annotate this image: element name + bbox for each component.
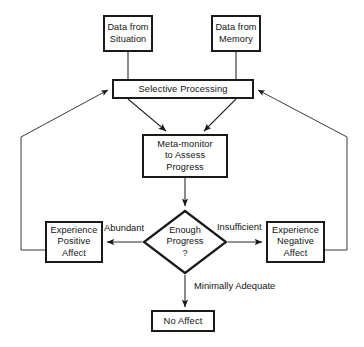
node-experience-negative-affect-line3: Affect: [284, 248, 308, 260]
node-selective-processing: Selective Processing: [112, 79, 254, 99]
node-experience-negative-affect-line2: Negative: [277, 236, 314, 248]
node-data-from-memory: Data from Memory: [211, 15, 261, 52]
node-data-from-situation: Data from Situation: [103, 15, 153, 52]
node-experience-positive-affect-line3: Affect: [62, 248, 86, 260]
node-meta-monitor-line1: Meta-monitor: [157, 139, 212, 151]
edge-selective-left-to-metamonitor: [128, 99, 166, 131]
node-no-affect: No Affect: [151, 310, 215, 332]
node-experience-positive-affect-line2: Positive: [58, 236, 91, 248]
node-decision-enough-progress: Enough Progress ?: [142, 209, 228, 275]
node-no-affect-label: No Affect: [164, 315, 203, 327]
flowchart-diagram: Data from Situation Data from Memory Sel…: [0, 0, 364, 347]
edge-label-insufficient: Insufficient: [217, 221, 262, 232]
node-data-from-situation-line2: Situation: [110, 34, 147, 46]
node-experience-negative-affect: Experience Negative Affect: [266, 221, 325, 263]
node-experience-negative-affect-line1: Experience: [272, 225, 319, 237]
node-selective-processing-label: Selective Processing: [138, 83, 227, 95]
node-decision-text: Enough Progress ?: [142, 209, 228, 275]
node-meta-monitor-line3: Progress: [166, 162, 204, 174]
node-data-from-memory-line2: Memory: [219, 34, 253, 46]
node-data-from-memory-line1: Data from: [215, 22, 256, 34]
node-decision-line1: Enough: [169, 225, 201, 236]
edge-label-abundant: Abundant: [104, 222, 144, 233]
edge-label-minimally-adequate: Minimally Adequate: [194, 280, 275, 291]
edge-selective-right-to-metamonitor: [204, 99, 236, 131]
node-meta-monitor: Meta-monitor to Assess Progress: [142, 134, 228, 178]
node-experience-positive-affect-line1: Experience: [51, 225, 98, 237]
node-decision-line3: ?: [182, 248, 187, 259]
node-experience-positive-affect: Experience Positive Affect: [45, 221, 103, 263]
node-data-from-situation-line1: Data from: [107, 22, 148, 34]
node-meta-monitor-line2: to Assess: [165, 150, 205, 162]
node-decision-line2: Progress: [167, 236, 204, 247]
